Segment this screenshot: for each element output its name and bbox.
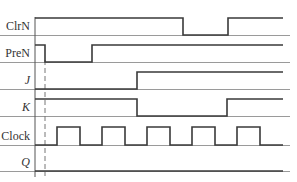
waveform-clrn (35, 18, 283, 35)
timing-diagram: ClrNPreNJKClockQ (0, 0, 297, 182)
waveform-k (35, 99, 283, 116)
signal-label-clrn: ClrN (6, 19, 30, 33)
waveform-clock (35, 127, 283, 145)
signal-label-q: Q (21, 155, 30, 169)
signal-label-j: J (25, 73, 31, 87)
waveform-j (35, 72, 283, 89)
lane-baselines (0, 36, 290, 172)
signal-label-clock: Clock (1, 129, 30, 143)
signal-labels: ClrNPreNJKClockQ (1, 19, 31, 169)
signal-label-k: K (21, 100, 31, 114)
signal-waveforms (35, 18, 283, 171)
waveform-pren (35, 45, 283, 62)
signal-label-pren: PreN (5, 46, 30, 60)
